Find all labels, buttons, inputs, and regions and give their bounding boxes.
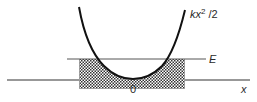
x-axis-label: x	[241, 84, 247, 95]
potential-label-exponent: 2	[201, 7, 205, 16]
potential-label-rest: /2	[205, 8, 217, 20]
energy-label: E	[209, 54, 216, 65]
potential-label: kx2 /2	[190, 9, 218, 21]
potential-well-diagram	[0, 0, 257, 102]
origin-label: 0	[130, 84, 136, 95]
